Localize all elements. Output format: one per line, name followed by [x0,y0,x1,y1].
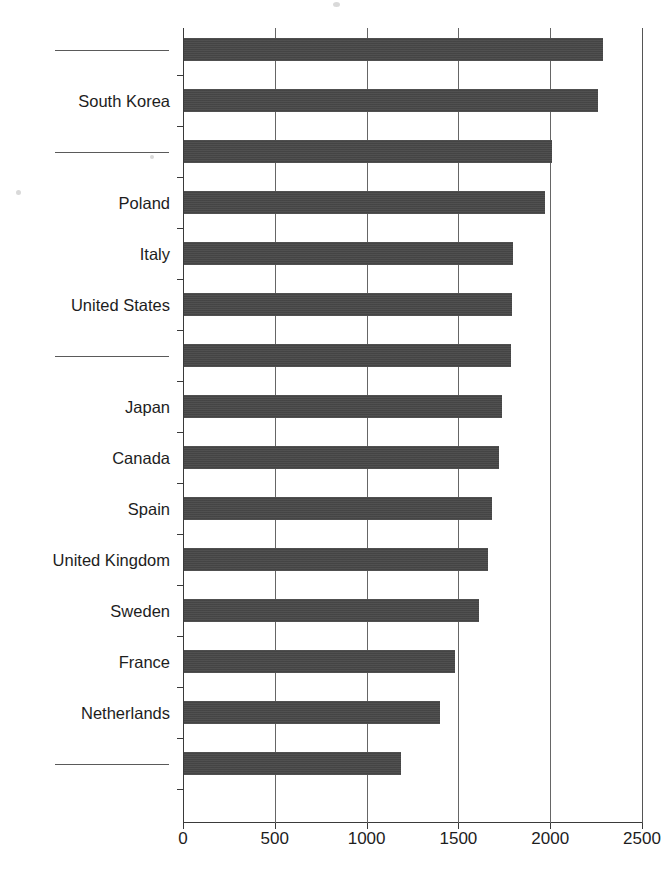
y-axis-tick [177,228,183,229]
y-axis-tick [177,534,183,535]
y-axis-tick [177,432,183,433]
x-tick-label: 2500 [623,829,661,849]
bar [184,293,512,316]
bar [184,752,401,775]
category-label: Poland [0,194,170,212]
bar [184,497,492,520]
bar [184,140,552,163]
y-axis-tick [177,789,183,790]
bar [184,242,513,265]
redacted-category-label [55,764,169,765]
category-label: France [0,653,170,671]
y-axis-tick [177,687,183,688]
x-tick-label: 1500 [439,829,477,849]
y-axis-tick [177,279,183,280]
redacted-category-label [55,356,169,357]
y-axis-tick [177,738,183,739]
gridline [642,28,643,823]
y-axis-tick [177,126,183,127]
plot-area [183,28,642,823]
category-label: United States [0,296,170,314]
bar [184,701,440,724]
bar [184,650,455,673]
category-label: Spain [0,500,170,518]
x-tick-label: 2000 [531,829,569,849]
category-label: Sweden [0,602,170,620]
category-label: South Korea [0,92,170,110]
x-tick-label: 500 [261,829,289,849]
bar [184,548,488,571]
y-axis-tick [177,585,183,586]
category-label: Netherlands [0,704,170,722]
x-tick-label: 0 [178,829,187,849]
y-axis-tick [177,177,183,178]
redacted-category-label [55,50,169,51]
bar [184,38,603,61]
x-tick-label: 1000 [348,829,386,849]
y-axis-tick [177,483,183,484]
bar-chart: South KoreaPolandItalyUnited StatesJapan… [0,0,667,870]
x-axis-line [183,822,642,823]
bar [184,89,598,112]
y-axis-tick [177,381,183,382]
y-axis-tick [177,636,183,637]
bar [184,344,511,367]
bar [184,395,502,418]
category-label: Japan [0,398,170,416]
category-label: Italy [0,245,170,263]
category-label: United Kingdom [0,551,170,569]
category-label: Canada [0,449,170,467]
redacted-category-label [55,152,169,153]
y-axis-tick [177,75,183,76]
y-axis-tick [177,330,183,331]
bar [184,191,545,214]
bar [184,599,479,622]
bar [184,446,499,469]
